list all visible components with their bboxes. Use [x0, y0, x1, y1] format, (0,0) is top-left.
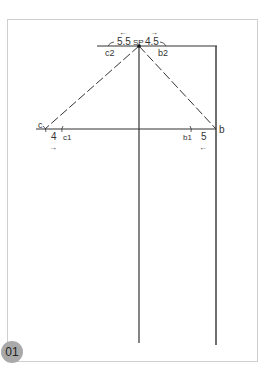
top-left-measure: 5.5 — [117, 36, 131, 47]
arrow-right-icon: → — [49, 143, 57, 152]
c2-label: c2 — [105, 48, 115, 58]
arrow-left-icon: ← — [119, 28, 127, 37]
right-measure: 5 — [201, 131, 207, 142]
c-label: c — [38, 120, 43, 130]
c1-label: c1 — [63, 133, 72, 142]
left-measure: 4 — [51, 131, 57, 142]
dashed-line-left — [45, 46, 139, 129]
top-right-measure: 4.5 — [145, 36, 159, 47]
pattern-diagram: 5.5 SP 4.5 c2 b2 c 4 c1 b1 5 b ← → → ← — [0, 0, 263, 369]
b-label: b — [219, 124, 225, 135]
arrow-right-icon: → — [150, 28, 158, 37]
dashed-line-right — [139, 46, 216, 129]
sp-label: SP — [133, 38, 144, 47]
b2-label: b2 — [158, 48, 168, 58]
figure-number-badge: 01 — [1, 341, 23, 363]
b1-label: b1 — [183, 133, 192, 142]
arrow-left-icon: ← — [199, 143, 207, 152]
